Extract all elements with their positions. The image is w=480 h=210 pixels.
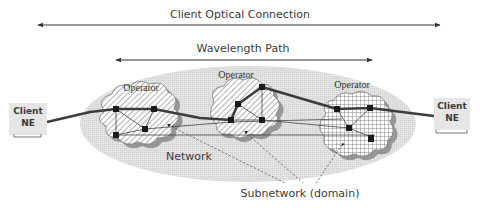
client-ne-left-line1: Client <box>13 106 43 116</box>
operator-label-3: Operator <box>334 79 370 90</box>
client-ne-left: Client NE <box>9 103 47 137</box>
client-ne-right: Client NE <box>434 98 470 133</box>
subnetwork-label: Subnetwork (domain) <box>241 187 360 200</box>
client-optical-connection-label: Client Optical Connection <box>170 8 310 21</box>
network-label: Network <box>166 150 213 163</box>
client-ne-right-line2: NE <box>445 113 459 123</box>
client-ne-left-line2: NE <box>21 118 35 128</box>
wavelength-path-label: Wavelength Path <box>197 42 290 55</box>
operator-label-2: Operator <box>218 69 254 80</box>
optical-network-diagram: Client Optical Connection Wavelength Pat… <box>0 0 480 210</box>
operator-label-1: Operator <box>123 82 159 93</box>
client-ne-right-line1: Client <box>437 101 467 111</box>
